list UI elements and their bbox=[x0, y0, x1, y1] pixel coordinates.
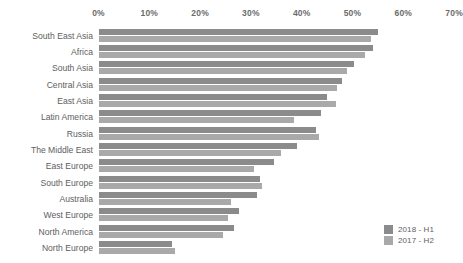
chart-row: South East Asia bbox=[0, 28, 459, 44]
chart-row: South Asia bbox=[0, 60, 459, 76]
bar-series-2017-h2 bbox=[99, 248, 175, 254]
category-label: North Europe bbox=[0, 242, 93, 254]
legend-swatch-icon bbox=[384, 225, 393, 234]
x-axis-tick-label: 70% bbox=[445, 8, 463, 18]
bar-series-2018-h1 bbox=[99, 208, 240, 214]
bar-series-2017-h2 bbox=[99, 183, 263, 189]
chart-row: Africa bbox=[0, 44, 459, 60]
chart-row: East Asia bbox=[0, 93, 459, 109]
x-axis-tick-label: 40% bbox=[293, 8, 311, 18]
legend-label: 2018 - H1 bbox=[398, 225, 434, 234]
chart-row: Latin America bbox=[0, 109, 459, 125]
legend-label: 2017 - H2 bbox=[398, 236, 434, 245]
x-axis: 0%10%20%30%40%50%60%70% bbox=[0, 0, 459, 26]
category-label: Russia bbox=[0, 128, 93, 140]
x-axis-tick-label: 50% bbox=[344, 8, 362, 18]
bar-series-2017-h2 bbox=[99, 166, 255, 172]
category-label: Australia bbox=[0, 193, 93, 205]
chart-row: The Middle East bbox=[0, 142, 459, 158]
bar-series-2017-h2 bbox=[99, 199, 231, 205]
bar-series-2018-h1 bbox=[99, 110, 322, 116]
category-label: West Europe bbox=[0, 209, 93, 221]
category-label: Central Asia bbox=[0, 79, 93, 91]
category-label: Africa bbox=[0, 46, 93, 58]
chart-row: Central Asia bbox=[0, 77, 459, 93]
category-label: South East Asia bbox=[0, 30, 93, 42]
bar-series-2017-h2 bbox=[99, 36, 371, 42]
bar-series-2018-h1 bbox=[99, 241, 172, 247]
bar-series-2018-h1 bbox=[99, 127, 317, 133]
legend-swatch-icon bbox=[384, 236, 393, 245]
bar-series-2017-h2 bbox=[99, 117, 294, 123]
bar-series-2018-h1 bbox=[99, 78, 342, 84]
bar-series-2018-h1 bbox=[99, 225, 235, 231]
bar-series-2018-h1 bbox=[99, 29, 378, 35]
bar-series-2017-h2 bbox=[99, 52, 366, 58]
bar-series-2018-h1 bbox=[99, 94, 328, 100]
chart-row: West Europe bbox=[0, 207, 459, 223]
category-label: East Asia bbox=[0, 95, 93, 107]
bar-series-2018-h1 bbox=[99, 143, 297, 149]
category-label: The Middle East bbox=[0, 144, 93, 156]
bar-series-2017-h2 bbox=[99, 215, 229, 221]
bar-series-2017-h2 bbox=[99, 68, 347, 74]
x-axis-tick-label: 20% bbox=[191, 8, 209, 18]
bar-series-2017-h2 bbox=[99, 150, 281, 156]
category-label: South Europe bbox=[0, 177, 93, 189]
chart-row: Russia bbox=[0, 126, 459, 142]
x-axis-tick-label: 0% bbox=[92, 8, 105, 18]
x-axis-tick-label: 10% bbox=[140, 8, 158, 18]
legend-item[interactable]: 2017 - H2 bbox=[384, 235, 434, 245]
bar-series-2017-h2 bbox=[99, 232, 223, 238]
category-label: East Europe bbox=[0, 160, 93, 172]
bar-series-2017-h2 bbox=[99, 101, 336, 107]
chart-row: Australia bbox=[0, 191, 459, 207]
category-label: South Asia bbox=[0, 62, 93, 74]
bar-series-2018-h1 bbox=[99, 159, 274, 165]
category-label: North America bbox=[0, 226, 93, 238]
x-axis-tick-label: 30% bbox=[242, 8, 260, 18]
chart-row: South Europe bbox=[0, 175, 459, 191]
chart-legend: 2018 - H12017 - H2 bbox=[384, 224, 434, 246]
bar-series-2017-h2 bbox=[99, 134, 319, 140]
bar-series-2017-h2 bbox=[99, 85, 337, 91]
bar-series-2018-h1 bbox=[99, 192, 257, 198]
bar-series-2018-h1 bbox=[99, 61, 355, 67]
category-label: Latin America bbox=[0, 111, 93, 123]
bar-series-2018-h1 bbox=[99, 45, 374, 51]
bar-series-2018-h1 bbox=[99, 176, 261, 182]
legend-item[interactable]: 2018 - H1 bbox=[384, 224, 434, 234]
x-axis-tick-label: 60% bbox=[394, 8, 412, 18]
chart-row: East Europe bbox=[0, 158, 459, 174]
